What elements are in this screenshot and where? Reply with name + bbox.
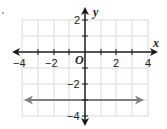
x-tick-label: −2 [45,57,58,69]
y-axis-label: y [91,5,99,19]
y-tick-label: −4 [67,110,80,122]
coordinate-plane: −4 −2 2 4 2 −2 −4 O x y [0,0,167,129]
x-axis-label: x [152,36,159,50]
y-tick-label: 2 [74,14,80,26]
x-tick-label: 4 [145,57,151,69]
y-tick-label: −2 [67,78,80,90]
x-tick-label: 2 [113,57,119,69]
origin-label: O [75,53,84,67]
bullet-dot [2,12,4,14]
x-tick-label: −4 [13,57,26,69]
